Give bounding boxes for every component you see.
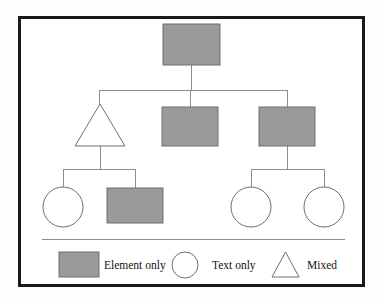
tree-node-text-circle-left[interactable] (43, 187, 83, 227)
tree-node-text-circle-mid-right[interactable] (231, 187, 271, 227)
document-tree-figure: Element only Text only Mixed (0, 0, 382, 304)
legend-label-text-only: Text only (212, 259, 256, 272)
legend-swatch-circle-icon (172, 252, 198, 278)
tree-node-middle-element[interactable] (162, 107, 218, 146)
tree-node-leaf-element[interactable] (107, 188, 163, 223)
tree-node-root-element[interactable] (163, 24, 220, 65)
legend-label-mixed: Mixed (307, 259, 337, 271)
tree-node-right-element[interactable] (259, 107, 315, 146)
figure-canvas: Element only Text only Mixed (0, 0, 382, 304)
legend-label-element-only: Element only (104, 259, 166, 272)
legend-swatch-rectangle-icon (59, 252, 99, 277)
tree-node-text-circle-right[interactable] (304, 187, 344, 227)
